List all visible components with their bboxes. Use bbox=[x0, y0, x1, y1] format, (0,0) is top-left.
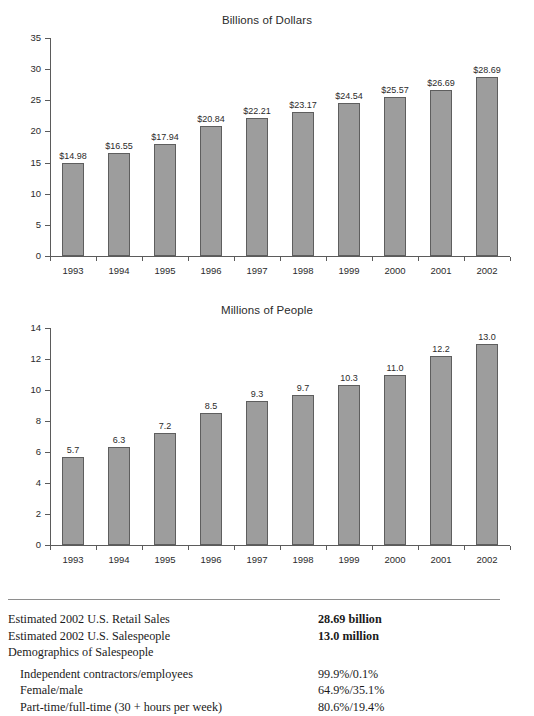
y-axis-tick-label: 12 bbox=[30, 353, 41, 364]
y-axis-tick-label: 2 bbox=[36, 508, 41, 519]
x-axis-tick bbox=[142, 546, 143, 550]
bar: 13.0 bbox=[476, 344, 498, 546]
bar: $14.98 bbox=[62, 163, 84, 256]
x-axis-category-label: 1995 bbox=[142, 265, 188, 276]
x-axis-tick bbox=[326, 546, 327, 550]
y-axis-tick-label: 20 bbox=[30, 125, 41, 136]
summary-row-label: Demographics of Salespeople bbox=[8, 645, 154, 660]
y-axis-tick-label: 15 bbox=[30, 157, 41, 168]
chart-title: Millions of People bbox=[0, 304, 534, 316]
y-axis-line bbox=[50, 38, 51, 257]
bar: 7.2 bbox=[154, 433, 176, 545]
x-axis-category-label: 2002 bbox=[464, 554, 510, 565]
y-axis-tick-label: 10 bbox=[30, 188, 41, 199]
summary-row-label: Estimated 2002 U.S. Salespeople bbox=[8, 629, 170, 644]
x-axis-category-label: 1993 bbox=[50, 265, 96, 276]
x-axis-category-label: 1993 bbox=[50, 554, 96, 565]
summary-divider bbox=[8, 599, 500, 600]
x-axis-tick bbox=[464, 546, 465, 550]
x-axis-tick bbox=[464, 257, 465, 261]
bar: 6.3 bbox=[108, 447, 130, 545]
y-axis-tick-label: 35 bbox=[30, 32, 41, 43]
y-axis-tick: 25 bbox=[45, 100, 50, 101]
bar-value-label: 9.7 bbox=[297, 383, 310, 393]
bar: 9.7 bbox=[292, 395, 314, 545]
y-axis-tick-label: 0 bbox=[36, 250, 41, 261]
y-axis-line bbox=[50, 328, 51, 546]
bar-value-label: $14.98 bbox=[59, 151, 87, 161]
x-axis-tick bbox=[50, 546, 51, 550]
x-axis-tick bbox=[510, 546, 511, 550]
bar-value-label: 12.2 bbox=[432, 344, 450, 354]
summary-row-list: Estimated 2002 U.S. Retail Sales28.69 bi… bbox=[8, 612, 508, 716]
bar: $20.84 bbox=[200, 126, 222, 256]
x-axis-tick bbox=[326, 257, 327, 261]
x-axis-category-label: 1999 bbox=[326, 265, 372, 276]
summary-row-value: 13.0 million bbox=[318, 629, 379, 644]
y-axis-tick-label: 30 bbox=[30, 63, 41, 74]
x-axis-category-label: 1999 bbox=[326, 554, 372, 565]
chart-title: Billions of Dollars bbox=[0, 14, 534, 26]
bar-value-label: $23.17 bbox=[289, 100, 317, 110]
summary-row: Part-time/full-time (30 + hours per week… bbox=[8, 700, 508, 716]
bar-value-label: $22.21 bbox=[243, 106, 271, 116]
summary-row-value: 64.9%/35.1% bbox=[318, 683, 384, 698]
summary-row: Demographics of Salespeople bbox=[8, 645, 508, 662]
chart-billions-of-dollars: Billions of Dollars 05101520253035 $14.9… bbox=[0, 0, 534, 290]
x-axis-category-label: 2002 bbox=[464, 265, 510, 276]
plot-area: 02468101214 5.76.37.28.59.39.710.311.012… bbox=[50, 328, 510, 546]
bar: $26.69 bbox=[430, 90, 452, 256]
summary-row: Female/male64.9%/35.1% bbox=[8, 683, 508, 700]
x-axis-category-label: 1995 bbox=[142, 554, 188, 565]
bar-value-label: 9.3 bbox=[251, 389, 264, 399]
y-axis-tick-label: 25 bbox=[30, 94, 41, 105]
summary-row-value: 99.9%/0.1% bbox=[318, 667, 378, 682]
x-axis-category-label: 1994 bbox=[96, 265, 142, 276]
bar: 11.0 bbox=[384, 375, 406, 546]
summary-row: Estimated 2002 U.S. Retail Sales28.69 bi… bbox=[8, 612, 508, 629]
bar: $23.17 bbox=[292, 112, 314, 256]
x-axis-tick bbox=[418, 546, 419, 550]
y-axis-tick-label: 14 bbox=[30, 322, 41, 333]
bar-value-label: $24.54 bbox=[335, 91, 363, 101]
bar-value-label: $25.57 bbox=[381, 85, 409, 95]
bar-value-label: 11.0 bbox=[387, 363, 404, 373]
x-axis-tick bbox=[372, 546, 373, 550]
x-axis-category-label: 1998 bbox=[280, 265, 326, 276]
bar: $22.21 bbox=[246, 118, 268, 256]
x-axis-tick bbox=[280, 546, 281, 550]
summary-row-value: 80.6%/19.4% bbox=[318, 700, 384, 715]
y-axis-tick: 15 bbox=[45, 163, 50, 164]
bar: 5.7 bbox=[62, 457, 84, 545]
x-axis-category-label: 1996 bbox=[188, 554, 234, 565]
bar-value-label: 10.3 bbox=[340, 373, 358, 383]
summary-row-value: 28.69 billion bbox=[318, 612, 382, 627]
y-axis-tick: 12 bbox=[45, 359, 50, 360]
x-axis-tick bbox=[188, 546, 189, 550]
summary-row-label: Estimated 2002 U.S. Retail Sales bbox=[8, 612, 170, 627]
x-axis-category-label: 2001 bbox=[418, 265, 464, 276]
bar: 9.3 bbox=[246, 401, 268, 545]
x-axis-category-label: 2000 bbox=[372, 265, 418, 276]
bar-value-label: 8.5 bbox=[205, 401, 218, 411]
bar: $17.94 bbox=[154, 144, 176, 256]
bar-value-label: $20.84 bbox=[197, 114, 225, 124]
summary-row-label: Independent contractors/employees bbox=[20, 667, 193, 682]
bar-value-label: 13.0 bbox=[478, 332, 496, 342]
x-axis-tick bbox=[234, 546, 235, 550]
y-axis-tick-label: 6 bbox=[36, 446, 41, 457]
x-axis-category-label: 1997 bbox=[234, 265, 280, 276]
y-axis-tick-label: 10 bbox=[30, 384, 41, 395]
summary-row-label: Female/male bbox=[20, 683, 83, 698]
bar-value-label: 5.7 bbox=[67, 445, 80, 455]
summary-panel: Estimated 2002 U.S. Retail Sales28.69 bi… bbox=[0, 580, 534, 705]
bar-value-label: 6.3 bbox=[113, 435, 126, 445]
bar-value-label: $17.94 bbox=[151, 132, 179, 142]
y-axis-tick: 4 bbox=[45, 483, 50, 484]
y-axis-tick-label: 4 bbox=[36, 477, 41, 488]
x-axis-category-label: 2001 bbox=[418, 554, 464, 565]
x-axis-tick bbox=[280, 257, 281, 261]
x-axis-tick bbox=[372, 257, 373, 261]
y-axis-tick: 30 bbox=[45, 69, 50, 70]
bar: 8.5 bbox=[200, 413, 222, 545]
